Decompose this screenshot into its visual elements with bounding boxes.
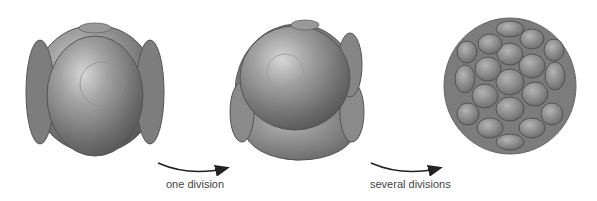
four-cell-embryo <box>20 14 170 164</box>
morula-embryo <box>440 14 580 159</box>
several-divisions-label: several divisions <box>370 178 451 190</box>
eight-cell-embryo <box>230 20 365 165</box>
one-division-label: one division <box>166 178 224 190</box>
